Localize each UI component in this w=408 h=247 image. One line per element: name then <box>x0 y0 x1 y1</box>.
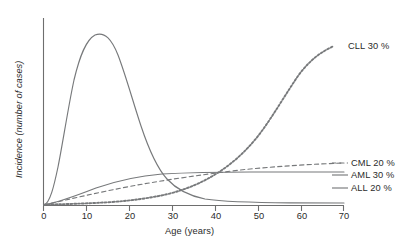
series-curve-cll <box>44 46 334 205</box>
x-tick-label-70: 70 <box>329 211 359 221</box>
series-label-cml: CML 20 % <box>351 158 395 168</box>
x-tick-label-40: 40 <box>201 211 231 221</box>
x-axis-label: Age (years) <box>165 226 214 236</box>
x-tick-label-0: 0 <box>29 211 59 221</box>
y-axis-label: Incidence (number of cases) <box>14 61 24 178</box>
series-label-all: ALL 20 % <box>351 183 392 193</box>
series-curve-aml <box>44 172 344 205</box>
series-label-aml: AML 30 % <box>351 170 394 180</box>
series-curve-all <box>44 34 344 205</box>
x-tick-label-30: 30 <box>158 211 188 221</box>
series-label-cll: CLL 30 % <box>348 41 389 51</box>
x-tick-label-50: 50 <box>244 211 274 221</box>
incidence-by-age-chart: Incidence (number of cases) Age (years) … <box>0 0 408 247</box>
x-tick-label-60: 60 <box>287 211 317 221</box>
chart-canvas <box>0 0 408 247</box>
x-tick-label-20: 20 <box>115 211 145 221</box>
series-curve-cml <box>44 163 344 205</box>
x-tick-label-10: 10 <box>72 211 102 221</box>
